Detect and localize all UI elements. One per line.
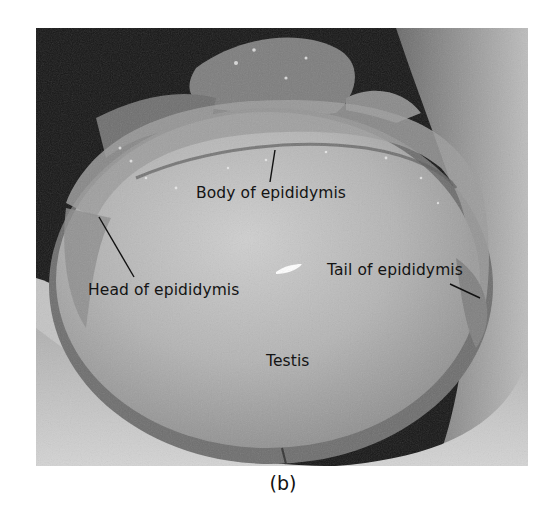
tail-leader-line: [450, 284, 480, 298]
label-body-of-epididymis: Body of epididymis: [196, 184, 346, 202]
label-head-of-epididymis: Head of epididymis: [88, 281, 239, 299]
figure-caption: (b): [0, 472, 552, 494]
figure: Body of epididymis Head of epididymis Ta…: [0, 0, 552, 516]
label-tail-of-epididymis: Tail of epididymis: [327, 261, 463, 279]
leader-lines: [0, 0, 552, 516]
label-testis: Testis: [266, 352, 310, 370]
head-leader-line: [99, 217, 134, 277]
body-leader-line: [270, 150, 275, 182]
